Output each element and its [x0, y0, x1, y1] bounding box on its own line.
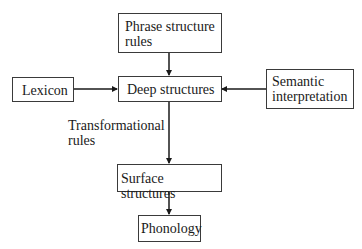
node-lexicon-label: Lexicon: [22, 83, 73, 98]
node-deep-structures: Deep structures: [118, 76, 222, 102]
node-deep-structures-label: Deep structures: [127, 82, 221, 97]
node-phonology: Phonology: [138, 215, 201, 242]
node-surface-structures: Surface structures: [117, 164, 222, 192]
edge-label-transformational-rules-line2: rules: [68, 133, 165, 148]
node-semantic-interpretation-line1: Semantic: [272, 74, 353, 89]
node-semantic-interpretation: Semantic interpretation: [266, 69, 354, 109]
node-semantic-interpretation-line2: interpretation: [272, 89, 353, 104]
edge-label-transformational-rules: Transformational rules: [68, 118, 165, 148]
edge-label-transformational-rules-line1: Transformational: [68, 118, 165, 133]
node-phrase-structure-rules-line2: rules: [125, 34, 221, 49]
node-phonology-label: Phonology: [141, 221, 200, 236]
node-lexicon: Lexicon: [12, 77, 74, 102]
node-phrase-structure-rules: Phrase structure rules: [118, 13, 222, 53]
node-surface-structures-label: Surface structures: [121, 171, 221, 201]
node-phrase-structure-rules-line1: Phrase structure: [125, 19, 221, 34]
